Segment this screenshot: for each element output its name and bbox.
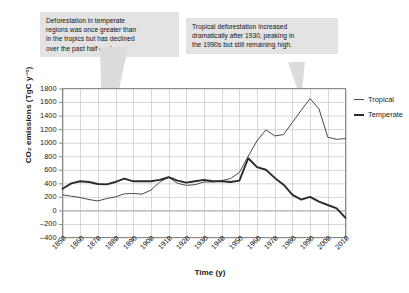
y-tick-label: 400 bbox=[23, 179, 57, 188]
figure-container: Deforestation in temperate regions was o… bbox=[0, 0, 409, 293]
legend-label-tropical: Tropical bbox=[368, 95, 394, 104]
legend-label-temperate: Temperate bbox=[368, 110, 403, 119]
legend-swatch bbox=[354, 114, 364, 116]
chart-gridlines bbox=[63, 89, 347, 239]
y-tick-label: 1800 bbox=[23, 84, 57, 93]
y-tick-label: –200 bbox=[23, 219, 57, 228]
y-tick-label: 1000 bbox=[23, 138, 57, 147]
y-tick-label: 1400 bbox=[23, 111, 57, 120]
y-tick-label: –400 bbox=[23, 233, 57, 242]
y-tick-label: 1600 bbox=[23, 97, 57, 106]
y-tick-label: 800 bbox=[23, 152, 57, 161]
legend-swatch bbox=[354, 99, 364, 100]
y-tick-label: 600 bbox=[23, 165, 57, 174]
chart-plot bbox=[0, 0, 409, 293]
y-tick-label: 200 bbox=[23, 192, 57, 201]
x-axis-label: Time (y) bbox=[150, 268, 270, 277]
y-tick-label: 0 bbox=[23, 206, 57, 215]
y-tick-label: 1200 bbox=[23, 125, 57, 134]
